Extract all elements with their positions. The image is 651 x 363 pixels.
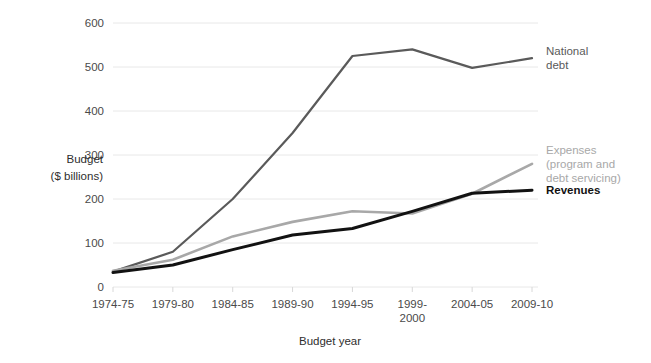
y-tick-label: 600	[85, 17, 104, 29]
y-tick-label: 400	[85, 105, 104, 117]
series-label: Revenues	[546, 184, 600, 196]
series-label: debt	[546, 59, 569, 71]
series-label: Expenses	[546, 144, 597, 156]
y-axis-title-line1: Budget	[67, 153, 104, 165]
x-tickmarks-group	[113, 287, 532, 292]
x-axis-title: Budget year	[299, 335, 361, 347]
y-tick-label: 100	[85, 237, 104, 249]
x-tick-label: 2004-05	[451, 298, 493, 310]
series-line	[113, 164, 532, 271]
series-lines-group	[113, 49, 532, 272]
x-tick-label: 1999-	[398, 298, 428, 310]
x-tick-labels-group: 1974-751979-801984-851989-901994-951999-…	[92, 298, 553, 324]
x-tick-label: 1974-75	[92, 298, 134, 310]
x-tick-label: 1984-85	[212, 298, 254, 310]
x-tick-label: 1979-80	[152, 298, 194, 310]
x-tick-label: 1989-90	[271, 298, 313, 310]
series-labels-group: NationaldebtExpenses(program anddebt ser…	[546, 45, 621, 196]
series-line	[113, 190, 532, 272]
line-chart: 0100200300400500600 1974-751979-801984-8…	[0, 0, 651, 363]
series-label: (program and	[546, 158, 615, 170]
series-label: National	[546, 45, 588, 57]
x-tick-label: 2000	[399, 312, 425, 324]
chart-canvas: 0100200300400500600 1974-751979-801984-8…	[0, 0, 651, 363]
series-label: debt servicing)	[546, 172, 621, 184]
y-axis-title: Budget ($ billions)	[51, 153, 104, 182]
y-tick-label: 0	[98, 281, 104, 293]
y-axis-title-line2: ($ billions)	[51, 170, 104, 182]
y-tick-label: 200	[85, 193, 104, 205]
series-line	[113, 49, 532, 271]
y-tick-label: 500	[85, 61, 104, 73]
x-tick-label: 1994-95	[331, 298, 373, 310]
x-tick-label: 2009-10	[511, 298, 553, 310]
